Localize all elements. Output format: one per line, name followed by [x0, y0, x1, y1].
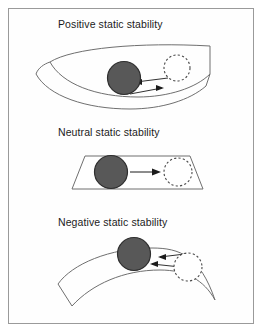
static-stability-figure: Positive static stability: [0, 0, 264, 334]
ball-solid: [95, 156, 128, 189]
panel-neutral-canvas: [0, 120, 264, 210]
panel-negative-canvas: [0, 210, 264, 322]
displaced-ball-dashed: [164, 158, 192, 186]
ball-solid: [108, 62, 141, 95]
ball-solid: [118, 238, 151, 271]
displaced-ball-dashed: [164, 55, 190, 81]
panel-positive-stability: Positive static stability: [0, 12, 264, 116]
panel-negative-stability: Negative static stability: [0, 210, 264, 322]
panel-neutral-stability: Neutral static stability: [0, 120, 264, 210]
displaced-ball-dashed: [174, 253, 202, 281]
panel-positive-canvas: [0, 12, 264, 116]
